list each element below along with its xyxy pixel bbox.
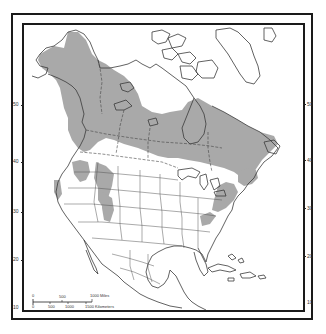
lat-label-50-left: 50	[13, 102, 19, 107]
tick	[303, 160, 306, 161]
tick	[21, 105, 24, 106]
tick	[303, 104, 306, 105]
scale-miles-1000: 1000 Miles	[90, 294, 109, 298]
scale-km-1500: 1500 Kilometers	[85, 305, 114, 309]
scale-km-1000: 1000	[65, 305, 74, 309]
scale-km-0: 0	[32, 305, 34, 309]
north-america-map	[24, 25, 305, 312]
lat-label-10-right: 10	[307, 300, 313, 305]
tick	[303, 256, 306, 257]
tick	[21, 260, 24, 261]
lat-label-30-right: 30	[307, 206, 313, 211]
lat-label-40-right: 40	[307, 158, 313, 163]
map-frame	[22, 23, 305, 312]
scale-bar: 0 500 1000 Miles 0 500 1000 1500 Kilomet…	[32, 293, 132, 313]
tick	[21, 162, 24, 163]
lat-label-40-left: 40	[13, 159, 19, 164]
scale-miles-0: 0	[32, 294, 34, 298]
scale-km-500: 500	[48, 305, 55, 309]
scale-bar-line	[32, 293, 132, 313]
range-shading	[38, 32, 278, 226]
tick	[21, 212, 24, 213]
scale-miles-500: 500	[59, 295, 66, 299]
lat-label-10-left: 10	[13, 305, 19, 310]
lat-label-20-left: 20	[13, 257, 19, 262]
lat-label-50-right: 50	[307, 102, 313, 107]
lat-label-30-left: 30	[13, 209, 19, 214]
tick	[303, 208, 306, 209]
lat-label-20-right: 20	[307, 254, 313, 259]
